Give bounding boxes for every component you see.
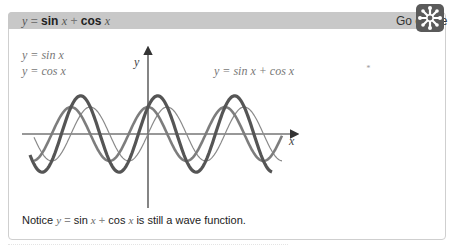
note-var-y: y [56,214,61,226]
note-var-x: x [91,214,96,226]
note-eq: = [64,214,70,226]
note-plus: + [99,214,105,226]
note-cos: cos [108,214,125,226]
note-var-x: x [128,214,133,226]
wave-graph [0,0,450,250]
note-prefix: Notice [22,214,53,226]
note-text: Notice y = sin x + cos x is still a wave… [22,214,246,226]
note-sin: sin [74,214,88,226]
cutoff-line [8,244,288,249]
note-suffix: is still a wave function. [136,214,245,226]
